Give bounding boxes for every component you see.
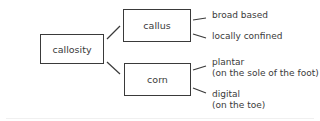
connector-callus-broad-based bbox=[193, 18, 206, 20]
connector-callosity-corn bbox=[107, 62, 120, 74]
bottom-divider bbox=[6, 118, 314, 119]
node-corn-label: corn bbox=[147, 74, 168, 85]
leaf-plantar-detail: (on the sole of the foot) bbox=[212, 68, 319, 79]
connector-callus-locally-confined bbox=[193, 34, 206, 38]
leaf-locally-confined: locally confined bbox=[212, 31, 282, 42]
node-callus-label: callus bbox=[143, 20, 170, 31]
connector-corn-digital bbox=[193, 88, 206, 93]
leaf-broad-based: broad based bbox=[212, 10, 268, 21]
node-callosity-label: callosity bbox=[52, 44, 91, 55]
connector-corn-plantar bbox=[193, 66, 206, 70]
leaf-digital: digital bbox=[212, 89, 240, 100]
leaf-plantar: plantar bbox=[212, 57, 244, 68]
connector-callosity-callus bbox=[107, 26, 120, 39]
node-callus: callus bbox=[123, 9, 191, 42]
node-callosity: callosity bbox=[40, 34, 104, 64]
node-corn: corn bbox=[124, 63, 191, 96]
leaf-digital-detail: (on the toe) bbox=[212, 100, 265, 111]
